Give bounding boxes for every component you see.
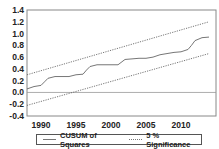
plot-series <box>27 22 216 106</box>
y-tick-label: 0.2 <box>12 76 24 86</box>
x-tick-label: 1990 <box>32 120 51 130</box>
legend-label-cusum: CUSUM of Squares <box>60 131 123 149</box>
cusum-chart: 1.41.21.00.80.60.40.20.0-0.2-0.4 1990199… <box>0 0 219 149</box>
y-tick-label: 1.2 <box>12 17 24 27</box>
y-tick-label: 1.4 <box>12 5 24 15</box>
y-tick-label: 0.8 <box>12 40 24 50</box>
legend-swatch-solid <box>43 139 56 140</box>
x-axis: 19901995200020052010 <box>32 120 191 130</box>
y-tick-label: 1.0 <box>12 29 24 39</box>
y-tick-label: -0.2 <box>9 99 24 109</box>
significance-line <box>27 54 209 106</box>
legend-label-significance: 5 % Significance <box>146 131 201 149</box>
x-tick-label: 1995 <box>67 120 86 130</box>
y-tick-label: 0.0 <box>12 87 24 97</box>
x-tick-label: 2000 <box>102 120 121 130</box>
legend: CUSUM of Squares 5 % Significance <box>36 134 202 145</box>
y-axis: 1.41.21.00.80.60.40.20.0-0.2-0.4 <box>9 5 24 121</box>
y-tick-label: -0.4 <box>9 111 24 121</box>
legend-swatch-dotted <box>129 139 142 140</box>
cusum-line <box>27 37 209 89</box>
x-tick-label: 2010 <box>172 120 191 130</box>
y-tick-label: 0.6 <box>12 52 24 62</box>
plot-frame <box>27 10 216 116</box>
significance-line <box>27 22 209 75</box>
x-tick-label: 2005 <box>137 120 156 130</box>
y-tick-label: 0.4 <box>12 64 24 74</box>
